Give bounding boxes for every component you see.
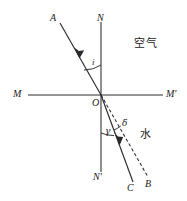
label-point-A: A [50, 13, 56, 23]
label-medium-water: 水 [140, 129, 152, 140]
incident-ray-arrowhead-icon [74, 48, 84, 59]
label-point-B: B [145, 179, 151, 189]
label-angle-refraction: γ [105, 127, 110, 136]
label-point-C: C [127, 183, 134, 193]
label-angle-deviation: δ [122, 119, 127, 128]
label-medium-air: 空气 [134, 38, 157, 49]
label-point-O: O [92, 98, 99, 108]
label-point-N: N [97, 13, 104, 23]
label-point-N-prime: N' [93, 172, 102, 182]
refraction-diagram-figure: A N M M' O N' C B i γ δ 空气 水 [0, 0, 187, 201]
label-point-M: M [13, 89, 21, 99]
label-point-M-prime: M' [166, 89, 176, 99]
label-angle-incidence: i [92, 58, 95, 67]
angle-arc-deviation [114, 126, 121, 130]
